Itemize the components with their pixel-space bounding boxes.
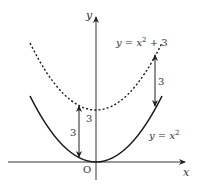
intercept-label: 3: [86, 113, 92, 124]
y-axis-label: y: [85, 9, 93, 22]
parabola-shift-diagram: y x O 3 3 3 y = x2 + 3 y = x2: [0, 0, 198, 188]
shifted-parabola-label: y = x2 + 3: [115, 36, 168, 48]
left-shift-label: 3: [70, 127, 76, 138]
x-axis-label: x: [183, 166, 190, 179]
right-shift-label: 3: [158, 76, 164, 87]
diagram-canvas: y x O 3 3 3 y = x2 + 3 y = x2: [0, 0, 198, 188]
base-parabola-label: y = x2: [148, 129, 180, 141]
origin-label: O: [83, 164, 91, 175]
